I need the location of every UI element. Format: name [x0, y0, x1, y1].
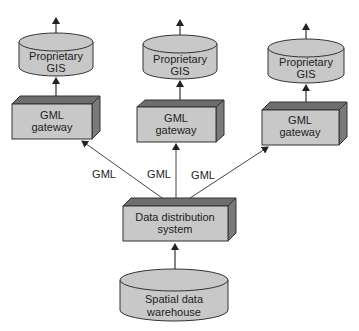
gis-label-1b: GIS	[47, 62, 66, 74]
edge-label-3: GML	[191, 169, 215, 181]
gis-label-3a: Proprietary	[279, 56, 333, 68]
gis-cylinder-1: Proprietary GIS	[19, 33, 93, 76]
data-distribution-box: Data distribution system	[123, 198, 236, 241]
gis-label-2a: Proprietary	[153, 53, 207, 65]
edge-label-1: GML	[92, 168, 116, 180]
gis-label-1a: Proprietary	[29, 50, 83, 62]
warehouse-label-a: Spatial data	[145, 293, 204, 305]
gml-gateway-box-2: GML gateway	[137, 100, 224, 142]
gis-cylinder-3: Proprietary GIS	[268, 39, 344, 83]
gml-gateway-box-1: GML gateway	[12, 96, 100, 139]
gis-cylinder-2: Proprietary GIS	[143, 35, 217, 79]
gateway-label-3b: gateway	[280, 126, 321, 138]
gateway-label-3a: GML	[288, 114, 312, 126]
edge-label-2: GML	[147, 168, 171, 180]
gateway-label-2b: gateway	[156, 124, 197, 136]
gateway-label-2a: GML	[164, 112, 188, 124]
diagram-canvas: Proprietary GIS Proprietary GIS Propriet…	[0, 0, 359, 331]
distribution-label-b: system	[158, 223, 193, 235]
gml-gateway-box-3: GML gateway	[262, 102, 347, 145]
gateway-label-1a: GML	[40, 109, 64, 121]
warehouse-label-b: warehouse	[146, 306, 201, 318]
gis-label-3b: GIS	[297, 68, 316, 80]
gis-label-2b: GIS	[171, 65, 190, 77]
gateway-label-1b: gateway	[32, 121, 73, 133]
distribution-label-a: Data distribution	[135, 211, 215, 223]
spatial-data-warehouse-cylinder: Spatial data warehouse	[120, 269, 228, 321]
